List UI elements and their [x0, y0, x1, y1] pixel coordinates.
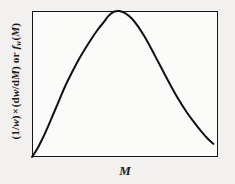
ylabel-close: ): [9, 116, 21, 120]
ylabel-deriv-w: w: [9, 90, 21, 98]
ylabel-f-var: f: [9, 46, 21, 50]
figure-root: (1/w)×(dw/dM) or fw(M) M: [0, 0, 235, 184]
ylabel-f-subscript: w: [14, 41, 23, 46]
distribution-curve: [32, 11, 213, 157]
ylabel-deriv-open: (d: [9, 97, 21, 107]
y-axis-label: (1/w)×(dw/dM) or fw(M): [0, 0, 32, 163]
ylabel-conjunction: or: [9, 53, 21, 64]
ylabel-w-var: w: [9, 120, 21, 128]
distribution-curve-svg: [32, 11, 218, 157]
x-axis-label-text: M: [119, 160, 131, 179]
y-axis-label-text: (1/w)×(dw/dM) or fw(M): [10, 23, 22, 140]
ylabel-f-arg-close: ): [9, 23, 21, 27]
ylabel-open: (1/: [9, 127, 21, 140]
multiplication-sign: ×: [10, 108, 21, 116]
ylabel-f-arg-open: (: [9, 37, 21, 41]
ylabel-deriv-m: M: [9, 70, 21, 80]
ylabel-f-arg: M: [9, 27, 21, 37]
x-axis-label: M: [32, 160, 218, 184]
ylabel-deriv-slash: /d: [9, 80, 21, 90]
ylabel-deriv-close: ): [9, 66, 21, 70]
